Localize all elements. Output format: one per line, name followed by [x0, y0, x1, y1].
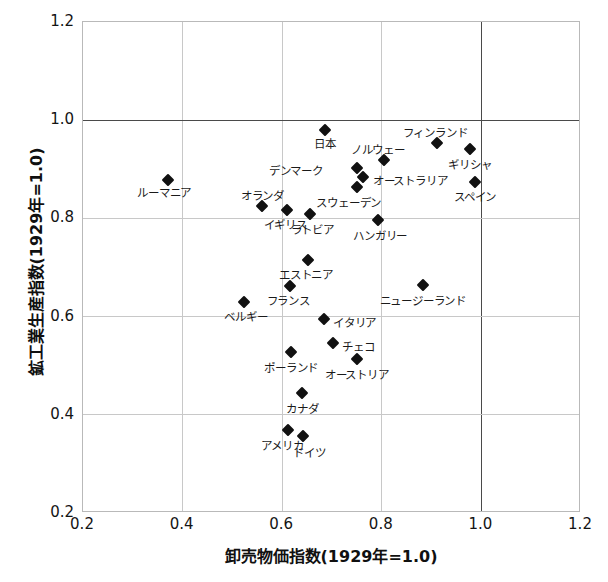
plot-area [82, 21, 580, 512]
x-tick-label-1.2: 1.2 [568, 515, 592, 533]
y-tick-label-0.8: 0.8 [50, 208, 74, 226]
gridline-horizontal-1.0 [83, 120, 579, 121]
y-tick-label-0.2: 0.2 [50, 503, 74, 521]
data-point-label: フランス [267, 295, 310, 307]
x-tick-label-0.8: 0.8 [369, 515, 393, 533]
y-tick-label-1.2: 1.2 [50, 12, 74, 30]
data-point-label: ギリシャ [448, 159, 491, 171]
data-point-label: オランダ [241, 190, 284, 202]
y-axis-title: 鉱工業生産指数(1929年=1.0) [23, 22, 47, 502]
data-point-label: フィンランド [403, 127, 468, 139]
x-axis-title: 卸売物価指数(1929年=1.0) [82, 543, 580, 567]
data-point-label: ハンガリー [353, 230, 407, 242]
data-point-label: チェコ [342, 341, 374, 353]
data-point-label: ニュージーランド [380, 295, 466, 307]
gridline-horizontal-0.8 [83, 218, 579, 219]
y-tick-label-0.6: 0.6 [50, 307, 74, 325]
data-point-label: ルーマニア [137, 187, 191, 199]
data-point-label: カナダ [286, 403, 318, 415]
gridline-vertical-0.6 [282, 22, 283, 511]
gridline-horizontal-0.4 [83, 414, 579, 415]
data-point-label: 日本 [314, 138, 336, 150]
x-tick-label-0.6: 0.6 [269, 515, 293, 533]
gridline-vertical-0.8 [381, 22, 382, 511]
data-point-label: ノルウェー [351, 144, 405, 156]
gridline-vertical-1.0 [481, 22, 482, 511]
data-point-label: イタリア [333, 317, 376, 329]
data-point-label: ラトビア [291, 224, 334, 236]
data-point-label: ポーランド [264, 362, 318, 374]
x-tick-label-0.4: 0.4 [170, 515, 194, 533]
data-point-label: スウェーデン [316, 197, 381, 209]
scatter-chart-figure: 卸売物価指数(1929年=1.0) 鉱工業生産指数(1929年=1.0) 0.2… [0, 0, 608, 582]
gridline-horizontal-0.6 [83, 316, 579, 317]
data-point-label: オーストラリア [373, 175, 448, 187]
data-point-label: オーストリア [325, 369, 389, 381]
data-point-label: エストニア [279, 269, 333, 281]
y-tick-label-1.0: 1.0 [50, 110, 74, 128]
x-tick-label-1.0: 1.0 [468, 515, 492, 533]
data-point-label: ドイツ [293, 447, 325, 459]
data-point-label: ベルギー [224, 311, 267, 323]
gridline-vertical-0.4 [182, 22, 183, 511]
data-point-label: スペイン [454, 191, 496, 203]
y-tick-label-0.4: 0.4 [50, 405, 74, 423]
data-point-label: デンマーク [269, 165, 323, 177]
